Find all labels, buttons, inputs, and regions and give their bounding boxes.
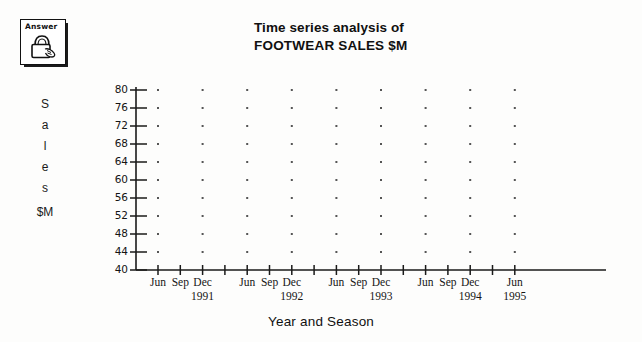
grid-dot	[291, 143, 293, 145]
grid-dot	[246, 161, 248, 163]
y-tick-label: 64	[92, 155, 128, 167]
grid-dot	[469, 251, 471, 253]
grid-dot	[514, 251, 516, 253]
y-tick-label: 72	[92, 119, 128, 131]
grid-dot	[157, 125, 159, 127]
grid-dot	[246, 197, 248, 199]
grid-dot	[157, 179, 159, 181]
grid-dot	[380, 179, 382, 181]
plot-area	[0, 0, 642, 342]
x-year-label: 1992	[268, 290, 316, 302]
grid-dot	[380, 215, 382, 217]
grid-dot	[246, 125, 248, 127]
x-tick-label: Jun	[495, 276, 535, 288]
y-tick-label: 48	[92, 227, 128, 239]
grid-dot	[157, 197, 159, 199]
grid-dot	[202, 89, 204, 91]
x-axis-label: Year and Season	[0, 314, 642, 329]
grid-dot	[380, 197, 382, 199]
grid-dot	[514, 89, 516, 91]
x-tick-label: Dec	[272, 276, 312, 288]
grid-dot	[157, 89, 159, 91]
grid-dot	[469, 89, 471, 91]
x-tick-label: Dec	[183, 276, 223, 288]
grid-dot	[514, 143, 516, 145]
grid-dot	[425, 89, 427, 91]
grid-dot	[202, 179, 204, 181]
grid-dot	[425, 233, 427, 235]
grid-dot	[514, 197, 516, 199]
grid-dot	[469, 179, 471, 181]
grid-dot	[425, 197, 427, 199]
x-year-label: 1994	[446, 290, 494, 302]
y-tick-label: 60	[92, 173, 128, 185]
grid-dot	[335, 179, 337, 181]
grid-dot	[380, 89, 382, 91]
grid-dot	[335, 215, 337, 217]
grid-dot	[157, 251, 159, 253]
grid-dot	[335, 89, 337, 91]
grid-dot	[425, 161, 427, 163]
chart-page: Answer Time series analysis of FOOTWEAR …	[0, 0, 642, 342]
grid-dot	[335, 143, 337, 145]
grid-dot	[246, 179, 248, 181]
grid-dot	[335, 161, 337, 163]
grid-dot	[246, 143, 248, 145]
grid-dot	[202, 143, 204, 145]
grid-dot	[514, 179, 516, 181]
grid-dot	[246, 251, 248, 253]
grid-dot	[157, 107, 159, 109]
grid-dot	[469, 215, 471, 217]
grid-dot	[514, 215, 516, 217]
grid-dot	[380, 161, 382, 163]
y-tick-label: 40	[92, 263, 128, 275]
grid-dot	[291, 89, 293, 91]
grid-dot	[469, 161, 471, 163]
grid-dot	[380, 107, 382, 109]
y-tick-label: 44	[92, 245, 128, 257]
grid-dot	[202, 233, 204, 235]
grid-dot	[157, 161, 159, 163]
y-tick-label: 80	[92, 83, 128, 95]
plot-svg	[0, 0, 642, 342]
x-tick-label: Dec	[450, 276, 490, 288]
grid-dot	[335, 251, 337, 253]
grid-dot	[246, 233, 248, 235]
grid-dot	[291, 107, 293, 109]
grid-dot	[335, 107, 337, 109]
grid-dot	[469, 197, 471, 199]
grid-dot	[380, 251, 382, 253]
grid-dot	[514, 125, 516, 127]
grid-dot	[157, 143, 159, 145]
grid-dot	[514, 161, 516, 163]
grid-dot	[202, 161, 204, 163]
grid-dot	[380, 143, 382, 145]
grid-dot	[202, 107, 204, 109]
grid-dot	[469, 107, 471, 109]
grid-dot	[246, 107, 248, 109]
x-year-label: 1995	[491, 290, 539, 302]
grid-dot	[380, 125, 382, 127]
grid-dot	[291, 251, 293, 253]
y-tick-label: 56	[92, 191, 128, 203]
grid-dot	[291, 215, 293, 217]
grid-dot	[469, 143, 471, 145]
grid-dot	[291, 161, 293, 163]
grid-dot	[291, 233, 293, 235]
grid-dot	[425, 125, 427, 127]
grid-dot	[291, 179, 293, 181]
grid-dot	[514, 107, 516, 109]
grid-dot	[335, 233, 337, 235]
grid-dot	[335, 197, 337, 199]
grid-dot	[469, 233, 471, 235]
x-year-label: 1991	[179, 290, 227, 302]
y-tick-label: 76	[92, 101, 128, 113]
x-year-label: 1993	[357, 290, 405, 302]
grid-dot	[202, 251, 204, 253]
grid-dot	[291, 125, 293, 127]
x-tick-label: Dec	[361, 276, 401, 288]
grid-dot	[202, 197, 204, 199]
grid-dot	[514, 233, 516, 235]
grid-dot	[246, 215, 248, 217]
grid-dot	[157, 233, 159, 235]
